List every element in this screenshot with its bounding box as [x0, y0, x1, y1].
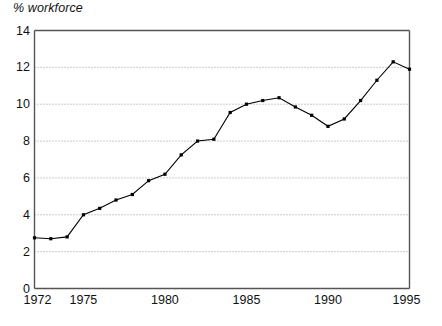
- data-point-marker: [196, 139, 199, 142]
- data-point-marker: [33, 236, 36, 239]
- data-point-marker: [343, 117, 346, 120]
- data-point-marker: [114, 198, 117, 201]
- x-axis-tick-label: 1995: [393, 293, 421, 307]
- data-point-marker: [245, 103, 248, 106]
- x-axis-tick-label: 1972: [24, 293, 52, 307]
- data-point-marker: [294, 105, 297, 108]
- data-point-marker: [98, 207, 101, 210]
- data-point-marker: [66, 235, 69, 238]
- data-point-marker: [131, 193, 134, 196]
- line-chart: % workforce 02468101214 1972197519801985…: [0, 0, 442, 326]
- data-point-marker: [229, 111, 232, 114]
- x-axis-tick-label: 1980: [151, 293, 179, 307]
- x-axis-tick-label: 1975: [69, 293, 97, 307]
- x-axis-tick-label: 1985: [233, 293, 261, 307]
- data-point-marker: [310, 114, 313, 117]
- data-point-marker: [392, 60, 395, 63]
- data-point-marker: [375, 79, 378, 82]
- data-series-line: [35, 62, 410, 239]
- plot-area: [0, 0, 442, 326]
- data-point-marker: [147, 179, 150, 182]
- x-axis-tick-label: 1990: [314, 293, 342, 307]
- data-point-marker: [163, 173, 166, 176]
- data-point-marker: [408, 68, 411, 71]
- data-point-marker: [261, 99, 264, 102]
- data-point-marker: [277, 96, 280, 99]
- data-point-marker: [180, 153, 183, 156]
- data-point-marker: [212, 138, 215, 141]
- data-point-marker: [49, 237, 52, 240]
- data-point-marker: [326, 125, 329, 128]
- data-point-marker: [359, 99, 362, 102]
- data-point-marker: [82, 213, 85, 216]
